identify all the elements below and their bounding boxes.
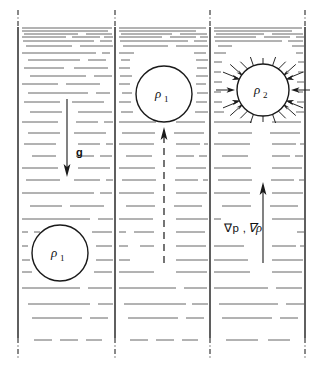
blob-rho1-left-subscript: 1 xyxy=(60,253,65,263)
panel-left-fluid-hatching xyxy=(22,28,113,340)
gravity-label: g xyxy=(76,146,83,158)
blob-rho1-middle-subscript: 1 xyxy=(164,94,169,104)
panel-left: g ρ 1 xyxy=(18,10,113,358)
blob-rho2-right-subscript: 2 xyxy=(263,90,268,100)
panel-middle: ρ 1 xyxy=(115,10,208,358)
gravity-arrow xyxy=(64,99,71,177)
grad-p-label: ∇p , xyxy=(223,222,246,234)
panel-right: ∇p , ∇ρ xyxy=(210,10,310,358)
blob-rho1-middle-label: ρ xyxy=(154,86,161,101)
figure-container: g ρ 1 xyxy=(0,0,323,375)
fluid-buoyancy-diagram: g ρ 1 xyxy=(0,0,323,375)
grad-rho-label: ∇ρ xyxy=(248,221,262,235)
buoyancy-dashed-arrow xyxy=(161,127,168,263)
blob-rho1-left-label: ρ xyxy=(50,245,57,260)
blob-rho2-right-label: ρ xyxy=(253,82,260,97)
